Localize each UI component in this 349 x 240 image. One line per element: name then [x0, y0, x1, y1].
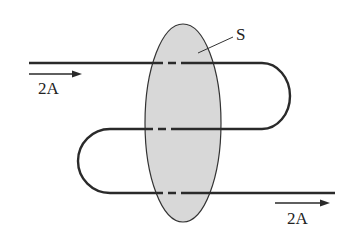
current-out-label: 2A	[287, 210, 308, 227]
diagram-canvas: S 2A 2A	[0, 0, 349, 240]
wire-right-loop	[262, 63, 290, 129]
current-in-label: 2A	[38, 80, 59, 97]
current-out-arrowhead-icon	[320, 200, 330, 207]
surface-label: S	[236, 26, 245, 43]
wire-left-loop	[78, 129, 110, 193]
wire-surface-diagram	[0, 0, 349, 240]
current-in-arrowhead-icon	[72, 71, 82, 78]
